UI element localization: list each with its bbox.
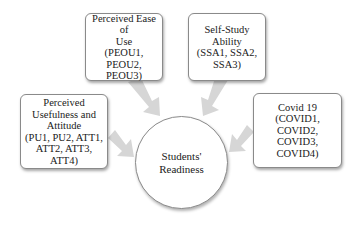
factor-pu-att-line-3: Attitude bbox=[47, 120, 81, 132]
factor-peou-line-3: (PEOU1, PEOU2, bbox=[89, 47, 159, 70]
factor-peou-line-2: Use bbox=[116, 36, 132, 48]
factor-pu-att-line-4: (PU1, PU2, ATT1, bbox=[25, 132, 103, 144]
factor-box-covid: Covid 19 (COVID1, COVID2, COVID3, COVID4… bbox=[253, 93, 342, 168]
factor-covid-line-3: COVID2, bbox=[277, 125, 318, 137]
factor-box-ssa: Self-Study Ability (SSA1, SSA2, SSA3) bbox=[188, 13, 266, 81]
factor-ssa-line-3: SSA3) bbox=[213, 59, 241, 71]
factor-pu-att-line-2: Usefulness and bbox=[32, 109, 96, 121]
factor-covid-line-1: Covid 19 bbox=[278, 102, 317, 114]
center-line-2: Readiness bbox=[159, 163, 204, 176]
arrow-ssa-to-readiness bbox=[201, 78, 228, 116]
factor-covid-line-2: (COVID1, bbox=[275, 113, 320, 125]
factor-covid-line-4: COVID3, bbox=[277, 136, 318, 148]
factor-pu-att-line-1: Perceived bbox=[43, 97, 84, 109]
factor-ssa-line-1: Self-Study Ability bbox=[192, 24, 262, 47]
arrow-pu-att-to-readiness bbox=[108, 130, 134, 157]
factor-pu-att-line-5: ATT2, ATT3, bbox=[36, 143, 92, 155]
factor-box-pu-att: Perceived Usefulness and Attitude (PU1, … bbox=[20, 94, 108, 169]
factor-peou-line-1: Perceived Ease of bbox=[89, 13, 159, 36]
factor-covid-line-5: COVID4) bbox=[277, 148, 319, 160]
factor-ssa-line-2: (SSA1, SSA2, bbox=[197, 47, 257, 59]
arrow-covid-to-readiness bbox=[229, 125, 254, 152]
center-line-1: Students' bbox=[162, 150, 202, 163]
factor-box-peou: Perceived Ease of Use (PEOU1, PEOU2, PEO… bbox=[85, 13, 163, 81]
arrow-peou-to-readiness bbox=[128, 78, 160, 116]
center-node-students-readiness: Students' Readiness bbox=[135, 116, 228, 209]
factor-peou-line-4: PEOU3) bbox=[106, 70, 142, 82]
factor-pu-att-line-6: ATT4) bbox=[50, 155, 78, 167]
